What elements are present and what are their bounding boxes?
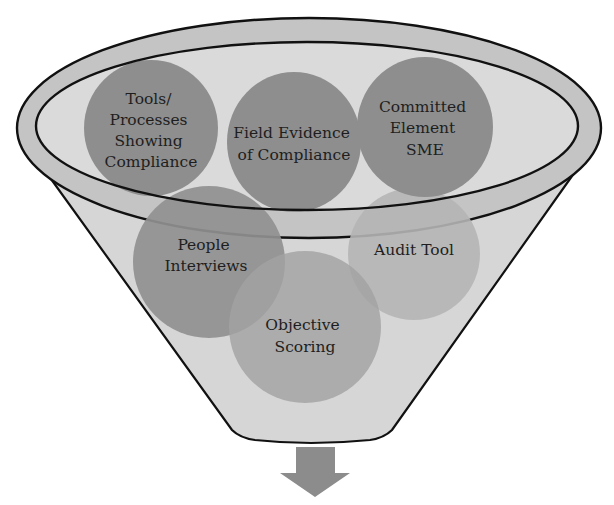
label-audit: Audit Tool — [373, 241, 454, 259]
down-arrow-icon — [280, 447, 350, 497]
funnel-diagram: Tools/ Processes Showing Compliance Fiel… — [0, 0, 614, 505]
circle-field-evidence — [227, 72, 361, 212]
